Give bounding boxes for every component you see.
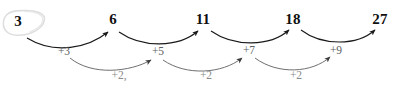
first-difference-label-1: +3 bbox=[58, 46, 70, 58]
term-value-3: 11 bbox=[196, 12, 211, 27]
handdrawn-oval-annotation-icon bbox=[3, 10, 44, 35]
arc-11-to-18 bbox=[211, 30, 289, 43]
term-value-2: 6 bbox=[109, 12, 117, 27]
term-value-5: 27 bbox=[372, 12, 387, 27]
second-difference-label-2: +2 bbox=[200, 70, 212, 82]
diagram-canvas: 3 6 11 18 27 +3 +5 +7 +9 +2, +2 +2 bbox=[0, 0, 402, 88]
arc-plus7-to-plus9 bbox=[255, 57, 330, 70]
second-difference-label-3: +2 bbox=[290, 70, 302, 82]
first-difference-label-4: +9 bbox=[330, 45, 342, 57]
arc-6-to-11 bbox=[119, 31, 198, 44]
first-difference-label-3: +7 bbox=[243, 45, 255, 57]
term-value-4: 18 bbox=[285, 12, 300, 27]
arc-18-to-27 bbox=[301, 30, 375, 42]
second-difference-label-1: +2, bbox=[111, 70, 126, 82]
term-value-1: 3 bbox=[14, 14, 22, 29]
first-difference-label-2: +5 bbox=[152, 46, 164, 58]
